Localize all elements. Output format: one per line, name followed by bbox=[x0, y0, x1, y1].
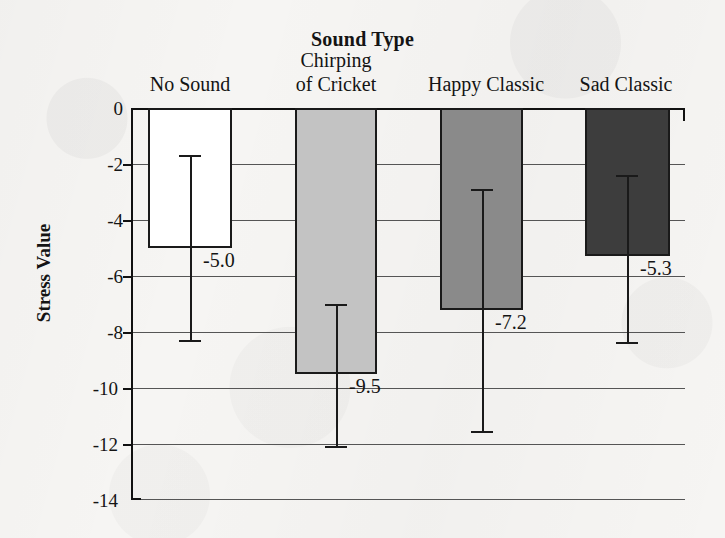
errorbar-line-happy-classic bbox=[482, 189, 484, 432]
errorbar-cap-bottom-chirping-of-cricket bbox=[325, 446, 347, 448]
y-axis-title: Stress Value bbox=[33, 193, 55, 353]
y-axis-top-cap bbox=[131, 108, 141, 110]
gridline-5 bbox=[131, 388, 685, 389]
y-axis-tick-4 bbox=[123, 332, 132, 334]
y-tick-label-2: -4 bbox=[75, 211, 123, 230]
category-label-3: Sad Classic bbox=[556, 72, 696, 96]
y-tick-label-7: -14 bbox=[70, 491, 118, 510]
y-axis-tick-6 bbox=[123, 444, 132, 446]
data-label-no-sound: -5.0 bbox=[203, 250, 235, 270]
data-label-sad-classic: -5.3 bbox=[640, 258, 672, 278]
errorbar-cap-bottom-happy-classic bbox=[471, 431, 493, 433]
errorbar-cap-bottom-no-sound bbox=[179, 340, 201, 342]
category-label-1: Chirping of Cricket bbox=[266, 48, 406, 96]
plot-right-top-cap bbox=[674, 108, 685, 110]
gridline-7 bbox=[131, 499, 685, 500]
y-axis-line bbox=[131, 108, 133, 500]
errorbar-cap-top-happy-classic bbox=[471, 189, 493, 191]
y-axis-bottom-cap bbox=[131, 498, 141, 500]
plot-area: -5.0 -9.5 -7.2 -5.3 bbox=[131, 108, 685, 500]
y-axis-tick-1 bbox=[123, 164, 132, 166]
gridline-3 bbox=[131, 276, 685, 277]
y-axis-tick-3 bbox=[123, 276, 132, 278]
errorbar-line-chirping-of-cricket bbox=[336, 304, 338, 447]
errorbar-cap-bottom-sad-classic bbox=[616, 342, 638, 344]
gridline-4 bbox=[131, 332, 685, 333]
errorbar-cap-top-chirping-of-cricket bbox=[325, 304, 347, 306]
y-tick-label-4: -8 bbox=[75, 323, 123, 342]
errorbar-line-no-sound bbox=[190, 155, 192, 341]
y-tick-label-6: -12 bbox=[70, 435, 118, 454]
y-axis-tick-5 bbox=[123, 388, 132, 390]
y-axis-tick-2 bbox=[123, 220, 132, 222]
category-label-0: No Sound bbox=[120, 72, 260, 96]
y-tick-label-3: -6 bbox=[75, 267, 123, 286]
gridline-6 bbox=[131, 444, 685, 445]
errorbar-cap-top-sad-classic bbox=[616, 175, 638, 177]
plot-right-tick-1 bbox=[676, 164, 685, 165]
errorbar-cap-top-no-sound bbox=[179, 155, 201, 157]
data-label-happy-classic: -7.2 bbox=[495, 312, 527, 332]
chart-figure: Sound Type Stress Value No Sound Chirpin… bbox=[0, 0, 725, 538]
y-tick-label-0: 0 bbox=[75, 99, 123, 118]
errorbar-line-sad-classic bbox=[627, 175, 629, 343]
y-tick-label-5: -10 bbox=[70, 379, 118, 398]
category-label-2: Happy Classic bbox=[412, 72, 560, 96]
data-label-chirping-of-cricket: -9.5 bbox=[349, 376, 381, 396]
y-tick-label-1: -2 bbox=[75, 155, 123, 174]
